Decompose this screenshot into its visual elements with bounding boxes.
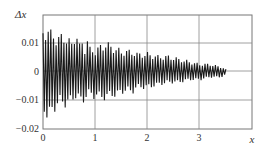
y-tick-neg-0.01: −0.01 <box>16 94 39 105</box>
damped-oscillation-chart: Δx 0.01 0 −0.01 −0.02 0 1 2 3 x <box>0 0 266 149</box>
y-tick-neg-0.02: −0.02 <box>16 123 39 134</box>
x-tick-1: 1 <box>93 132 98 143</box>
y-tick-0: 0 <box>34 66 39 77</box>
x-tick-0: 0 <box>41 132 46 143</box>
y-tick-0.01: 0.01 <box>22 37 40 48</box>
y-axis-label: Δx <box>14 8 26 20</box>
plot-frame <box>43 15 252 129</box>
x-axis-label: x <box>249 133 255 145</box>
x-tick-3: 3 <box>197 132 202 143</box>
x-tick-2: 2 <box>145 132 150 143</box>
